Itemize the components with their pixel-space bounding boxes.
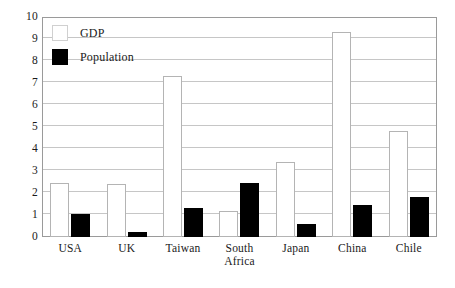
- bar-gdp-uk: [107, 184, 126, 237]
- legend-item-population[interactable]: Population: [52, 46, 202, 68]
- bar-population-taiwan: [184, 208, 203, 237]
- bar-gdp-taiwan: [163, 76, 182, 237]
- x-axis-tick-label: USA: [42, 242, 98, 255]
- bar-group: [211, 17, 267, 237]
- x-axis-tick-label-line: Japan: [268, 242, 324, 255]
- y-axis-tick-label: 0: [4, 231, 38, 243]
- x-axis-tick-label: China: [324, 242, 380, 255]
- legend-swatch-population: [52, 49, 68, 65]
- bar-group: [381, 17, 437, 237]
- bar-gdp-south-africa: [219, 211, 238, 237]
- bar-population-chile: [410, 197, 429, 237]
- bar-population-japan: [297, 224, 316, 237]
- bar-population-china: [353, 205, 372, 237]
- chart-legend: GDPPopulation: [52, 22, 202, 70]
- bar-group: [268, 17, 324, 237]
- x-axis-tick-label: Chile: [381, 242, 437, 255]
- bar-gdp-usa: [50, 183, 69, 237]
- y-axis-tick-label: 10: [4, 11, 38, 23]
- bar-gdp-japan: [276, 162, 295, 237]
- x-axis-tick-label-line: China: [324, 242, 380, 255]
- y-axis-tick-label: 8: [4, 55, 38, 67]
- y-axis-tick-label: 2: [4, 187, 38, 199]
- x-axis-tick-label-line: Africa: [211, 255, 267, 268]
- bar-population-usa: [71, 214, 90, 237]
- bar-chart: 109876543210 USAUKTaiwanSouthAfricaJapan…: [0, 0, 455, 288]
- x-axis-tick-label-line: Chile: [381, 242, 437, 255]
- x-axis: USAUKTaiwanSouthAfricaJapanChinaChile: [42, 242, 437, 286]
- x-axis-tick-label-line: UK: [98, 242, 154, 255]
- legend-label: Population: [80, 51, 134, 63]
- legend-swatch-gdp: [52, 25, 68, 41]
- bar-gdp-chile: [389, 131, 408, 237]
- y-axis-tick-label: 3: [4, 165, 38, 177]
- x-axis-tick-label: UK: [98, 242, 154, 255]
- bar-population-uk: [128, 232, 147, 238]
- x-axis-tick-label: Japan: [268, 242, 324, 255]
- bar-gdp-china: [332, 32, 351, 237]
- y-axis-tick-label: 6: [4, 99, 38, 111]
- bar-population-south-africa: [240, 183, 259, 237]
- x-axis-tick-label-line: South: [211, 242, 267, 255]
- x-axis-tick-label-line: Taiwan: [155, 242, 211, 255]
- y-axis-tick-label: 1: [4, 209, 38, 221]
- legend-label: GDP: [80, 27, 105, 39]
- bar-group: [324, 17, 380, 237]
- y-axis-tick-label: 5: [4, 121, 38, 133]
- x-axis-tick-label-line: USA: [42, 242, 98, 255]
- y-axis-tick-label: 7: [4, 77, 38, 89]
- y-axis-tick-label: 4: [4, 143, 38, 155]
- y-axis: 109876543210: [0, 17, 38, 237]
- x-axis-tick-label: Taiwan: [155, 242, 211, 255]
- x-axis-tick-label: SouthAfrica: [211, 242, 267, 268]
- legend-item-gdp[interactable]: GDP: [52, 22, 202, 44]
- y-axis-tick-label: 9: [4, 33, 38, 45]
